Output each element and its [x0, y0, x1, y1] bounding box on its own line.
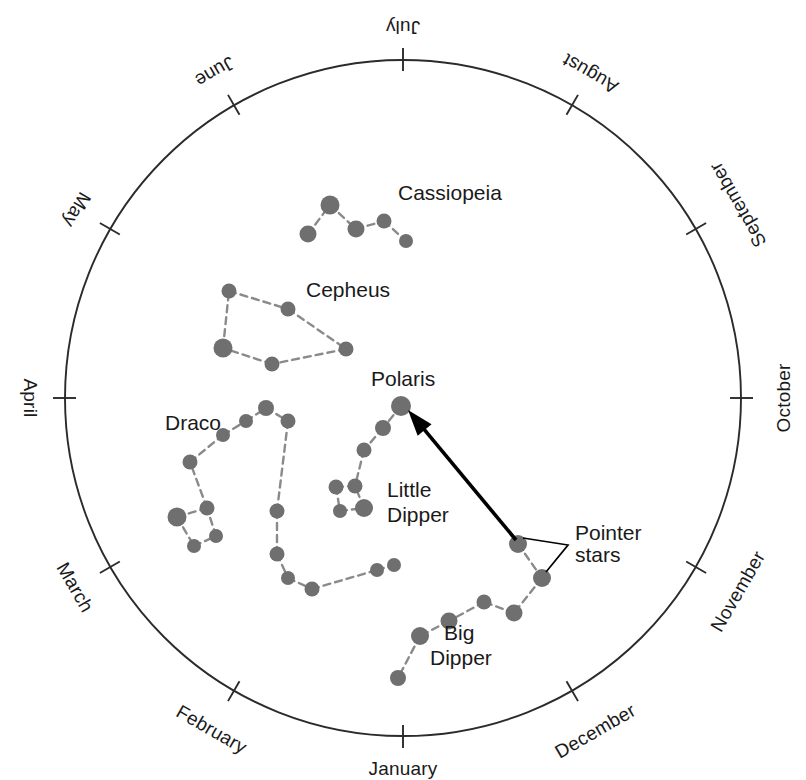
- month-tick-december: [567, 681, 579, 701]
- star-draco-4: [183, 455, 198, 470]
- star-draco-6: [239, 414, 253, 428]
- star-cepheus-4: [214, 339, 233, 358]
- constellation-line-cepheus: [272, 349, 346, 364]
- star-draco-3: [200, 501, 215, 516]
- star-draco-14: [387, 558, 401, 572]
- polaris-label: Polaris: [371, 367, 435, 390]
- star-cepheus-0: [222, 284, 237, 299]
- star-draco-1: [187, 539, 201, 553]
- pointer-stars-label-line1: Pointer: [575, 521, 642, 544]
- month-label-november: November: [706, 547, 769, 635]
- star-draco-10: [270, 547, 285, 562]
- month-tick-march: [100, 562, 120, 574]
- star-cassiopeia-2: [348, 221, 365, 238]
- constellation-label-little-dipper-line2: Dipper: [387, 503, 449, 526]
- month-label-august: August: [558, 49, 621, 98]
- star-big-dipper-2: [506, 605, 523, 622]
- star-cepheus-2: [339, 342, 354, 357]
- month-label-february: February: [173, 701, 251, 758]
- star-little-dipper-1: [375, 420, 391, 436]
- month-tick-february: [228, 681, 240, 701]
- constellation-line-draco: [277, 421, 288, 511]
- star-cassiopeia-4: [399, 234, 413, 248]
- star-cassiopeia-1: [321, 196, 340, 215]
- month-label-january: January: [369, 758, 438, 779]
- month-tick-june: [228, 95, 240, 115]
- month-label-october: October: [773, 363, 794, 432]
- month-tick-november: [686, 562, 706, 574]
- month-label-september: September: [705, 158, 771, 251]
- star-draco-13: [370, 563, 384, 577]
- star-cepheus-3: [265, 357, 280, 372]
- star-little-dipper-6: [355, 499, 373, 517]
- star-cassiopeia-0: [300, 226, 317, 243]
- star-little-dipper-2: [357, 443, 372, 458]
- star-draco-12: [305, 582, 320, 597]
- star-little-dipper-5: [333, 504, 347, 518]
- star-big-dipper-6: [390, 670, 406, 686]
- constellation-label-cassiopeia: Cassiopeia: [398, 181, 502, 204]
- pointer-stars-label-line2: stars: [575, 543, 621, 566]
- month-tick-may: [100, 223, 120, 235]
- constellation-label-draco: Draco: [165, 411, 221, 434]
- star-big-dipper-1: [533, 569, 551, 587]
- star-little-dipper-0: [391, 396, 411, 416]
- star-draco-8: [281, 414, 296, 429]
- star-chart-figure: JulyAugustSeptemberOctoberNovemberDecemb…: [0, 0, 806, 780]
- star-draco-2: [209, 529, 223, 543]
- star-little-dipper-3: [348, 479, 363, 494]
- sky-chart-svg: JulyAugustSeptemberOctoberNovemberDecemb…: [0, 0, 806, 780]
- constellation-label-big-dipper: Big: [444, 621, 474, 644]
- month-tick-august: [567, 95, 579, 115]
- constellation-label-little-dipper: Little: [387, 478, 431, 501]
- star-big-dipper-5: [411, 627, 429, 645]
- month-label-april: April: [20, 378, 41, 417]
- star-cassiopeia-3: [377, 214, 392, 229]
- constellation-label-big-dipper-line2: Dipper: [430, 646, 492, 669]
- month-label-june: June: [191, 52, 238, 91]
- star-draco-9: [270, 504, 285, 519]
- star-big-dipper-3: [477, 595, 492, 610]
- pointer-stars-leader: [523, 538, 568, 572]
- constellation-labels-group: CassiopeiaCepheusDracoLittleDipperBigDip…: [165, 181, 502, 669]
- star-little-dipper-4: [329, 480, 344, 495]
- star-dots-group: [168, 196, 552, 687]
- constellation-line-draco: [312, 570, 377, 589]
- constellation-label-cepheus: Cepheus: [306, 278, 390, 301]
- star-draco-0: [168, 508, 187, 527]
- star-draco-11: [281, 571, 295, 585]
- month-label-july: July: [385, 17, 420, 38]
- constellation-line-cepheus: [229, 291, 288, 309]
- month-label-march: March: [53, 559, 98, 616]
- annotations-group: PolarisPointerstars: [371, 367, 642, 572]
- month-tick-september: [686, 223, 706, 235]
- month-label-may: May: [59, 189, 96, 231]
- star-draco-7: [258, 400, 274, 416]
- constellation-line-cepheus: [288, 309, 346, 349]
- month-label-december: December: [551, 699, 639, 762]
- star-cepheus-1: [281, 302, 296, 317]
